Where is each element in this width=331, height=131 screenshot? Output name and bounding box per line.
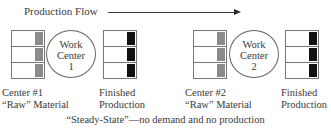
raw-kanban-fill (217, 64, 225, 77)
raw-kanban-fill (217, 48, 225, 61)
work-center-2: Work Center 2 (229, 30, 279, 78)
work-center-line: Center (230, 50, 278, 61)
finished-stack-2 (285, 30, 318, 79)
raw-bin (11, 30, 45, 46)
finished-kanban-fill (127, 64, 135, 77)
raw-bin (11, 46, 45, 62)
arrow-right-icon (234, 9, 241, 15)
finished-kanban-fill (309, 32, 317, 45)
finished-bin (285, 30, 319, 46)
production-flow-label: Production Flow (24, 5, 98, 17)
label-line: “Raw” Material (185, 99, 252, 111)
finished-kanban-fill (309, 48, 317, 61)
label-line: Center #1 (2, 87, 69, 99)
work-center-1: Work Center 1 (46, 30, 96, 78)
finished-bin (103, 46, 137, 62)
flow-arrow-line (108, 12, 236, 13)
finished-label-2: Finished Production (281, 87, 327, 111)
finished-kanban-fill (127, 48, 135, 61)
raw-bin (193, 62, 227, 79)
label-line: Production (281, 99, 327, 111)
raw-kanban-fill (35, 48, 43, 61)
finished-bin (285, 62, 319, 79)
label-line: Finished (99, 87, 145, 99)
raw-material-label-1: Center #1 “Raw” Material (2, 87, 69, 111)
label-line: “Raw” Material (2, 99, 69, 111)
raw-bin (11, 62, 45, 79)
raw-bin (193, 30, 227, 46)
label-line: Finished (281, 87, 327, 99)
work-center-number: 2 (230, 61, 278, 72)
finished-kanban-fill (127, 32, 135, 45)
raw-kanban-fill (217, 32, 225, 45)
label-line: Production (99, 99, 145, 111)
finished-label-1: Finished Production (99, 87, 145, 111)
finished-bin (103, 30, 137, 46)
work-center-line: Center (47, 50, 95, 61)
work-center-line: Work (230, 39, 278, 50)
raw-material-stack-2 (193, 30, 226, 79)
raw-kanban-fill (35, 32, 43, 45)
finished-bin (103, 62, 137, 79)
diagram-caption: “Steady-State”—no demand and no producti… (0, 114, 331, 125)
finished-bin (285, 46, 319, 62)
finished-kanban-fill (309, 64, 317, 77)
raw-material-stack-1 (11, 30, 44, 79)
finished-stack-1 (103, 30, 136, 79)
label-line: Center #2 (185, 87, 252, 99)
work-center-line: Work (47, 39, 95, 50)
work-center-number: 1 (47, 61, 95, 72)
raw-bin (193, 46, 227, 62)
raw-kanban-fill (35, 64, 43, 77)
raw-material-label-2: Center #2 “Raw” Material (185, 87, 252, 111)
